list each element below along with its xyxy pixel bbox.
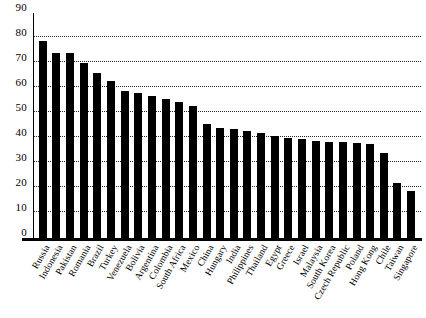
bar [107, 81, 115, 239]
bar-slot [200, 13, 214, 238]
plot-area: 0102030405060708090 [33, 13, 421, 238]
bar [66, 53, 74, 238]
y-tick-label: 10 [16, 202, 33, 213]
bar [380, 153, 388, 238]
x-label-slot: Romania [77, 241, 91, 318]
bar-chart: 0102030405060708090 RussiaIndonesiaPakis… [0, 0, 426, 318]
bar-slot [213, 13, 227, 238]
x-label-slot: Chile [377, 241, 391, 318]
bar-slot [91, 13, 105, 238]
bar [203, 124, 211, 238]
y-tick-label: 70 [16, 52, 33, 63]
y-tick-label: 60 [16, 77, 33, 88]
bar-slot [295, 13, 309, 238]
bar [39, 41, 47, 239]
bar-slot [377, 13, 391, 238]
x-label-slot: Brazil [91, 241, 105, 318]
bar [312, 141, 320, 239]
x-label-slot: Thailand [254, 241, 268, 318]
bar [80, 63, 88, 238]
bar-slot [77, 13, 91, 238]
bar-slot [104, 13, 118, 238]
bar-slot [131, 13, 145, 238]
bar [243, 131, 251, 239]
bar [407, 191, 415, 239]
x-label-slot: China [200, 241, 214, 318]
bar-slot [159, 13, 173, 238]
y-tick-label: 20 [16, 177, 33, 188]
x-label-slot: Mexico [186, 241, 200, 318]
bar-slot [282, 13, 296, 238]
x-label-slot: Hong Kong [363, 241, 377, 318]
bar [284, 138, 292, 238]
bar-slot [391, 13, 405, 238]
bar-slot [63, 13, 77, 238]
bar-slot [186, 13, 200, 238]
bar [162, 99, 170, 238]
x-label-slot: Singapore [404, 241, 418, 318]
y-tick-label: 50 [16, 102, 33, 113]
bar-slot [241, 13, 255, 238]
bar [271, 136, 279, 239]
y-tick-label: 0 [21, 227, 33, 238]
bar [121, 91, 129, 239]
x-axis-labels: RussiaIndonesiaPakistanRomaniaBrazilTurk… [33, 241, 421, 318]
bar-slot [336, 13, 350, 238]
bar-slot [145, 13, 159, 238]
x-label-slot: Venezuela [118, 241, 132, 318]
x-label-slot: Philippines [241, 241, 255, 318]
bar [175, 102, 183, 238]
y-tick-label: 80 [16, 27, 33, 38]
bar-slot [268, 13, 282, 238]
bar-series [33, 13, 421, 238]
y-tick-label: 30 [16, 152, 33, 163]
bar [298, 139, 306, 238]
bar [216, 128, 224, 238]
bar-slot [322, 13, 336, 238]
bar [148, 96, 156, 239]
bar-slot [404, 13, 418, 238]
y-tick-label: 40 [16, 127, 33, 138]
bar-slot [227, 13, 241, 238]
bar [189, 106, 197, 239]
bar-slot [350, 13, 364, 238]
bar [134, 93, 142, 238]
bar [52, 53, 60, 238]
x-label-slot: Greece [282, 241, 296, 318]
bar-slot [309, 13, 323, 238]
bar-slot [50, 13, 64, 238]
bar [230, 129, 238, 238]
bar-slot [363, 13, 377, 238]
bar [366, 144, 374, 238]
x-label-slot: South Africa [172, 241, 186, 318]
bar [339, 142, 347, 238]
bar [353, 143, 361, 238]
bar [325, 142, 333, 238]
x-label-slot: Indonesia [50, 241, 64, 318]
bar-slot [118, 13, 132, 238]
bar-slot [172, 13, 186, 238]
bar-slot [36, 13, 50, 238]
x-label-slot: Pakistan [63, 241, 77, 318]
bar [393, 183, 401, 238]
y-tick-label: 90 [16, 2, 33, 13]
x-label-slot: Egypt [268, 241, 282, 318]
bar [257, 133, 265, 238]
bar-slot [254, 13, 268, 238]
bar [93, 73, 101, 238]
